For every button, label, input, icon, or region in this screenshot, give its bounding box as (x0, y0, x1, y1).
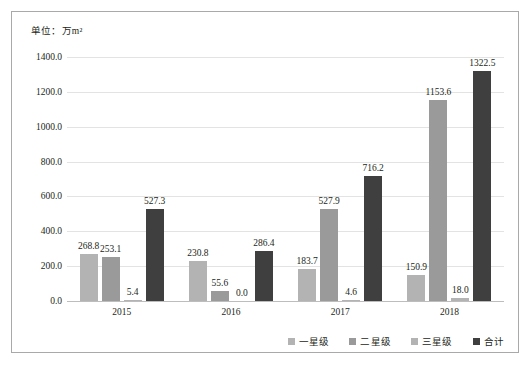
bar-value-label: 527.3 (144, 196, 165, 207)
y-axis-tick-label: 0.0 (50, 296, 62, 306)
y-axis-tick-label: 1200.0 (36, 87, 62, 97)
legend-label: 三星级 (422, 334, 453, 348)
bar-value-label: 4.6 (345, 287, 357, 298)
plot-area: 1400.01200.01000.0800.0600.0400.0200.00.… (67, 57, 504, 301)
bar[interactable] (451, 298, 469, 301)
bar-value-label: 55.6 (212, 278, 229, 289)
bar-slot: 527.9 (320, 57, 338, 301)
bar-group: 230.855.60.0286.42016 (176, 57, 285, 301)
y-axis-tick-label: 1400.0 (36, 52, 62, 62)
bar-slot: 55.6 (211, 57, 229, 301)
bar-value-label: 527.9 (318, 196, 339, 207)
bar[interactable] (146, 209, 164, 301)
bar[interactable] (364, 176, 382, 301)
bar[interactable] (298, 269, 316, 301)
y-axis-tick-label: 1000.0 (36, 122, 62, 132)
bar-slot: 286.4 (255, 57, 273, 301)
bar-slot: 268.8 (80, 57, 98, 301)
bar-slot: 527.3 (146, 57, 164, 301)
bar-value-label: 1153.6 (425, 87, 451, 98)
bar-value-label: 268.8 (78, 241, 99, 252)
bar-slot: 183.7 (298, 57, 316, 301)
chart-frame: 单位：万m² 1400.01200.01000.0800.0600.0400.0… (11, 11, 519, 353)
chart-legend: 一星级二星级三星级合计 (12, 334, 504, 348)
y-axis-tick-label: 600.0 (41, 191, 62, 201)
bar-slot: 5.4 (124, 57, 142, 301)
plot-wrapper: 1400.01200.01000.0800.0600.0400.0200.00.… (12, 12, 518, 352)
bar[interactable] (407, 275, 425, 301)
bar-group: 183.7527.94.6716.22017 (286, 57, 395, 301)
bar-value-label: 1322.5 (469, 58, 495, 69)
legend-label: 合计 (484, 334, 504, 348)
bar-group: 268.8253.15.4527.32015 (67, 57, 176, 301)
bar[interactable] (80, 254, 98, 301)
bar[interactable] (342, 300, 360, 301)
bar[interactable] (473, 71, 491, 301)
bar-value-label: 5.4 (127, 287, 139, 298)
axis-baseline: 0.0 (67, 301, 504, 302)
bar-value-label: 230.8 (187, 248, 208, 259)
bar[interactable] (124, 300, 142, 301)
bar[interactable] (189, 261, 207, 301)
bar[interactable] (429, 100, 447, 301)
bar-slot: 150.9 (407, 57, 425, 301)
bar-groups: 268.8253.15.4527.32015230.855.60.0286.42… (67, 57, 504, 301)
legend-swatch-icon (349, 338, 356, 345)
bar-group: 150.91153.618.01322.52018 (395, 57, 504, 301)
bar-slot: 18.0 (451, 57, 469, 301)
x-axis-tick-label: 2018 (440, 307, 459, 318)
x-axis-tick-label: 2015 (112, 307, 131, 318)
bar-slot: 1322.5 (473, 57, 491, 301)
legend-item[interactable]: 一星级 (288, 334, 330, 348)
bar-group-bars: 183.7527.94.6716.2 (286, 57, 395, 301)
bar-value-label: 0.0 (236, 288, 248, 299)
legend-item[interactable]: 二星级 (349, 334, 391, 348)
bar-value-label: 286.4 (253, 238, 274, 249)
y-axis-tick-label: 200.0 (41, 261, 62, 271)
bar-group-bars: 150.91153.618.01322.5 (395, 57, 504, 301)
bar-group-bars: 268.8253.15.4527.3 (67, 57, 176, 301)
bar-group-bars: 230.855.60.0286.4 (176, 57, 285, 301)
legend-label: 一星级 (299, 334, 330, 348)
bar[interactable] (320, 209, 338, 301)
bar[interactable] (211, 291, 229, 301)
legend-item[interactable]: 合计 (473, 334, 504, 348)
bar-slot: 230.8 (189, 57, 207, 301)
bar-slot: 253.1 (102, 57, 120, 301)
legend-item[interactable]: 三星级 (411, 334, 453, 348)
y-axis-tick-label: 400.0 (41, 226, 62, 236)
bar-value-label: 183.7 (296, 256, 317, 267)
bar[interactable] (102, 257, 120, 301)
bar-slot: 4.6 (342, 57, 360, 301)
bar-slot: 1153.6 (429, 57, 447, 301)
legend-label: 二星级 (360, 334, 391, 348)
bar-value-label: 253.1 (100, 244, 121, 255)
bar-slot: 0.0 (233, 57, 251, 301)
bar-value-label: 18.0 (452, 285, 469, 296)
bar-value-label: 150.9 (406, 262, 427, 273)
bar-slot: 716.2 (364, 57, 382, 301)
x-axis-tick-label: 2017 (331, 307, 350, 318)
x-axis-tick-label: 2016 (221, 307, 240, 318)
bar-value-label: 716.2 (362, 163, 383, 174)
legend-swatch-icon (288, 338, 295, 345)
legend-swatch-icon (411, 338, 418, 345)
bar[interactable] (255, 251, 273, 301)
y-axis-tick-label: 800.0 (41, 157, 62, 167)
legend-swatch-icon (473, 338, 480, 345)
